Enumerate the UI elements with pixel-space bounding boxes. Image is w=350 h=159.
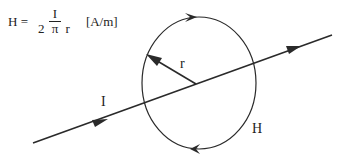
current-conductor-line — [33, 35, 332, 143]
current-arrow-icon — [92, 119, 108, 127]
radius-arrow-icon — [146, 54, 162, 66]
field-label: H — [252, 121, 262, 137]
radius-label: r — [180, 56, 185, 72]
field-direction-top-icon — [185, 13, 197, 22]
current-label: I — [101, 94, 106, 110]
current-arrow-icon — [286, 46, 301, 54]
magnetic-field-diagram — [0, 0, 350, 159]
radius-line — [154, 59, 196, 84]
